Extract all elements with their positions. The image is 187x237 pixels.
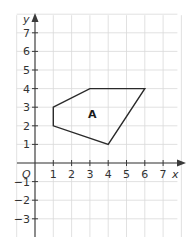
x-tick-label: 1 <box>50 168 57 181</box>
y-tick-label: −3 <box>14 213 30 226</box>
grid <box>17 14 182 237</box>
coordinate-grid: 12345677654321−1−2−3 x y O A <box>0 0 187 237</box>
y-tick-label: 4 <box>23 83 30 96</box>
y-tick-label: 3 <box>23 101 30 114</box>
x-tick-label: 2 <box>68 168 75 181</box>
x-tick-label: 4 <box>105 168 112 181</box>
y-tick-label: 5 <box>23 64 30 77</box>
x-tick-label: 3 <box>86 168 93 181</box>
origin-label: O <box>22 168 31 181</box>
y-axis-label: y <box>22 13 30 26</box>
x-tick-label: 6 <box>141 168 148 181</box>
y-tick-label: 6 <box>23 45 30 58</box>
polygon-a-label: A <box>88 108 97 121</box>
polygon-a <box>53 89 145 145</box>
axes <box>17 13 186 237</box>
x-tick-label: 5 <box>123 168 130 181</box>
y-tick-label: 1 <box>23 138 30 151</box>
y-tick-label: 2 <box>23 120 30 133</box>
y-tick-label: 7 <box>23 27 30 40</box>
x-tick-label: 7 <box>160 168 167 181</box>
x-axis-label: x <box>171 168 179 181</box>
y-tick-label: −2 <box>14 194 30 207</box>
